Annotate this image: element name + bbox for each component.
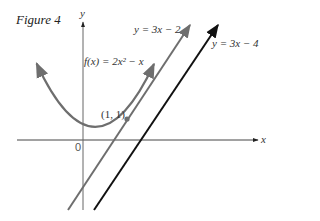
x-axis-label: x [261, 134, 266, 145]
line1-label: y = 3x − 2 [134, 24, 181, 35]
parabola-curve [37, 64, 154, 127]
line2-label: y = 3x − 4 [212, 38, 259, 49]
origin-label: 0 [75, 142, 81, 153]
y-axis-label: y [80, 8, 85, 19]
tangent-point [124, 116, 129, 121]
parabola-label: f(x) = 2x² − x [84, 56, 144, 67]
point-label: (1, 1) [101, 109, 125, 120]
